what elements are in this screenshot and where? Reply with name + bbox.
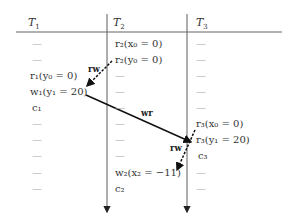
t3-cell: — xyxy=(196,86,206,98)
t3-cell: — xyxy=(196,54,206,66)
t2-cell: — xyxy=(115,150,125,162)
t2-cell: — xyxy=(115,118,125,130)
t3-cell: r₃(y₁ = 20) xyxy=(196,134,250,146)
t1-cell: r₁(y₀ = 0) xyxy=(30,70,77,82)
edge-label-wr: wr xyxy=(141,108,153,118)
t1-cell: — xyxy=(32,167,42,179)
t3-cell: — xyxy=(196,70,206,82)
edge-label-rw-1: rw xyxy=(88,64,100,74)
header-t1: T1 xyxy=(28,16,40,31)
edge-wr xyxy=(86,95,191,142)
t2-cell: — xyxy=(115,86,125,98)
t1-cell: — xyxy=(32,118,42,130)
t2-cell: — xyxy=(115,70,125,82)
t2-cell: — xyxy=(115,102,125,114)
header-t2: T2 xyxy=(113,16,125,31)
t1-cell: — xyxy=(32,150,42,162)
t2-cell: w₂(x₂ = −11) xyxy=(115,167,181,179)
t1-cell: w₁(y₁ = 20) xyxy=(30,86,88,98)
header-t3: T3 xyxy=(196,16,208,31)
t3-cell: — xyxy=(196,183,206,195)
edge-label-rw-2: rw xyxy=(170,143,182,153)
t3-cell: — xyxy=(196,38,206,50)
t1-cell: — xyxy=(32,54,42,66)
t3-cell: c₃ xyxy=(198,150,208,162)
t3-cell: r₃(x₀ = 0) xyxy=(196,118,243,130)
t3-cell: — xyxy=(196,167,206,179)
t1-cell: c₁ xyxy=(32,102,42,114)
t1-cell: — xyxy=(32,183,42,195)
t2-cell: r₂(y₀ = 0) xyxy=(115,54,162,66)
t2-cell: r₂(x₀ = 0) xyxy=(115,38,162,50)
t1-cell: — xyxy=(32,38,42,50)
t2-cell: c₂ xyxy=(115,183,125,195)
t3-cell: — xyxy=(196,102,206,114)
t2-cell: — xyxy=(115,134,125,146)
t1-cell: — xyxy=(32,134,42,146)
